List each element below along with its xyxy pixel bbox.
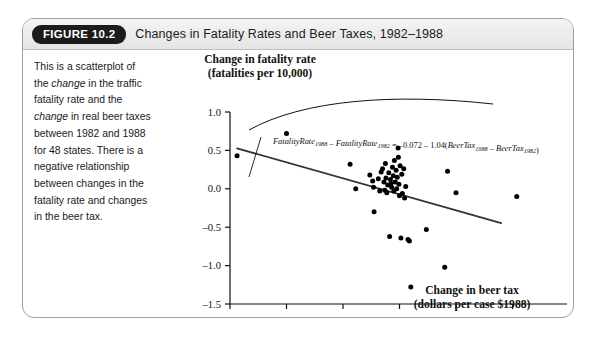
data-point xyxy=(367,172,372,177)
data-point xyxy=(395,175,400,180)
data-point xyxy=(392,158,397,163)
figure-caption: This is a scatterplot of the change in t… xyxy=(34,59,152,226)
data-point xyxy=(408,285,413,290)
x-tick-group: –0.6–0.4–0.20.00.20.40.6 xyxy=(220,304,567,311)
y-tick-label: –0.5 xyxy=(201,222,221,233)
data-point xyxy=(396,155,401,160)
leader-curve xyxy=(249,99,493,130)
regression-equation: FatalityRate1988 – FatalityRate1982 = –0… xyxy=(272,137,539,155)
figure-number-badge: FIGURE 10.2 xyxy=(32,25,126,44)
equation-text: FatalityRate1988 – FatalityRate1982 = –0… xyxy=(272,137,539,155)
scatter-plot: Change in fatality rate (fatalities per … xyxy=(163,53,567,311)
y-tick-label: 0.0 xyxy=(208,183,221,194)
data-point xyxy=(454,190,459,195)
data-point xyxy=(394,186,399,191)
figure-title: Changes in Fatality Rates and Beer Taxes… xyxy=(135,27,443,41)
plot-canvas: –0.6–0.4–0.20.00.20.40.6 –1.5–1.0–0.50.0… xyxy=(163,53,567,311)
y-tick-label: 1.0 xyxy=(208,107,221,118)
data-point xyxy=(399,172,404,177)
data-point xyxy=(400,191,405,196)
data-point xyxy=(384,190,389,195)
data-point xyxy=(386,170,391,175)
data-point xyxy=(445,169,450,174)
data-point xyxy=(383,176,388,181)
data-point xyxy=(383,161,388,166)
y-tick-label: –1.0 xyxy=(201,260,221,271)
data-point xyxy=(396,182,401,187)
fit-line xyxy=(237,148,501,223)
y-tick-group: –1.5–1.0–0.50.00.51.0 xyxy=(201,107,230,310)
data-point xyxy=(372,209,377,214)
data-point xyxy=(407,239,412,244)
y-tick-label: 0.5 xyxy=(208,145,221,156)
data-point xyxy=(377,189,382,194)
y-tick-label: –1.5 xyxy=(201,299,221,310)
data-point xyxy=(401,166,406,171)
leader-stem xyxy=(249,137,261,177)
data-point xyxy=(398,235,403,240)
data-point xyxy=(348,162,353,167)
data-point xyxy=(235,153,240,158)
data-point xyxy=(442,265,447,270)
data-points-group xyxy=(235,131,520,290)
data-point xyxy=(394,168,399,173)
data-point xyxy=(403,184,408,189)
data-point xyxy=(371,185,376,190)
regression-line xyxy=(237,148,501,223)
data-point xyxy=(514,194,519,199)
data-point xyxy=(402,196,407,201)
data-point xyxy=(424,227,429,232)
data-point xyxy=(380,166,385,171)
data-point xyxy=(376,176,381,181)
data-point xyxy=(353,186,358,191)
figure-container: FIGURE 10.2 Changes in Fatality Rates an… xyxy=(22,18,574,318)
data-point xyxy=(370,179,375,184)
data-point xyxy=(387,234,392,239)
data-point xyxy=(284,131,289,136)
figure-header: FIGURE 10.2 Changes in Fatality Rates an… xyxy=(23,19,573,50)
